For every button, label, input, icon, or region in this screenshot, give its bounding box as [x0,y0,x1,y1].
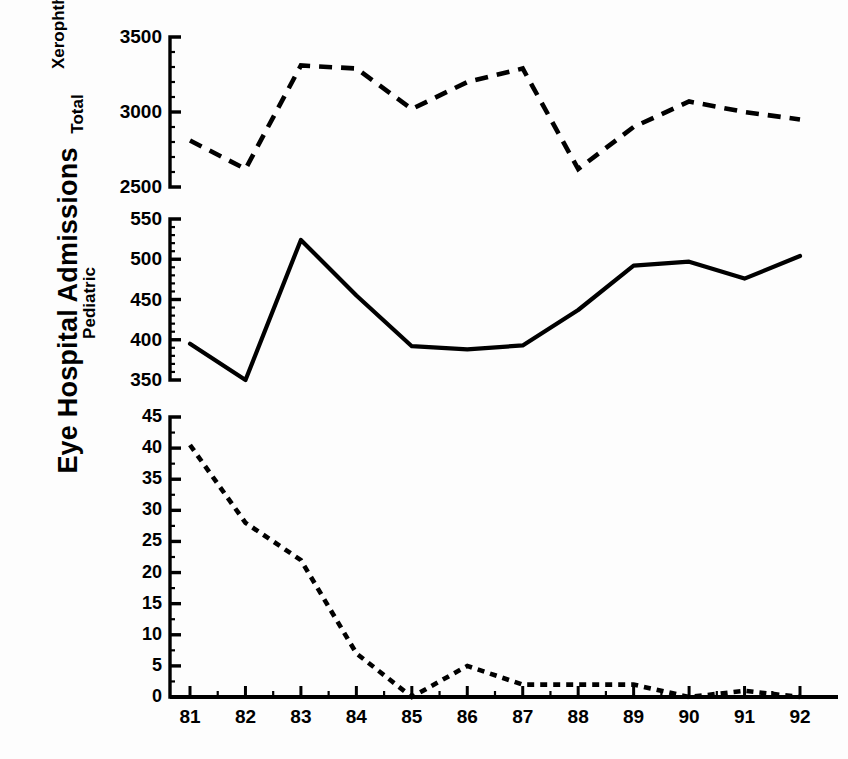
y-tick-label: 400 [94,330,162,349]
y-tick-label: 25 [94,531,162,550]
x-tick-label: 88 [558,707,598,727]
y-tick-label: 0 [94,687,162,706]
y-tick-label: 5 [94,656,162,675]
y-tick-label: 45 [94,407,162,426]
y-tick-label: 550 [94,209,162,228]
series-line-xerophthalmia [190,445,800,697]
x-tick-label: 87 [503,707,543,727]
y-tick-label: 40 [94,438,162,457]
y-tick-label: 350 [94,370,162,389]
panel-xerophthalmia [170,417,838,697]
x-tick-label: 85 [392,707,432,727]
panel-pediatric [170,219,800,380]
y-tick-label: 500 [94,249,162,268]
x-tick-label: 90 [669,707,709,727]
y-tick-label: 15 [94,594,162,613]
panel-total [170,37,800,187]
y-tick-label: 30 [94,500,162,519]
y-tick-label: 3500 [94,27,162,46]
x-tick-label: 84 [336,707,376,727]
x-tick-label: 91 [725,707,765,727]
y-tick-label: 450 [94,290,162,309]
series-line-pediatric [190,240,800,380]
y-tick-label: 2500 [94,177,162,196]
x-tick-label: 81 [170,707,210,727]
x-tick-label: 83 [281,707,321,727]
x-tick-label: 92 [780,707,820,727]
x-tick-label: 89 [614,707,654,727]
y-tick-label: 10 [94,625,162,644]
y-tick-label: 20 [94,563,162,582]
chart-figure: Eye Hospital Admissions Total Pediatric … [0,0,848,759]
x-tick-label: 86 [447,707,487,727]
series-line-total [190,66,800,170]
y-tick-label: 35 [94,469,162,488]
y-tick-label: 3000 [94,102,162,121]
x-tick-label: 82 [225,707,265,727]
